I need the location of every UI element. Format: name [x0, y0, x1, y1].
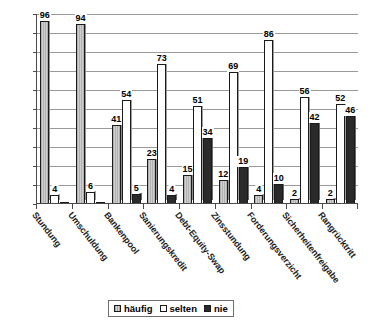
bar-group: 9460 [73, 14, 109, 203]
bar-value-label: 4 [51, 184, 58, 195]
bar-value-label: 54 [120, 89, 132, 100]
x-label-cell: Rangrücktritt [322, 206, 358, 290]
bar-haeufig[interactable]: 94 [76, 24, 85, 203]
legend-label: nie [214, 303, 228, 314]
bar-slot: 41 [112, 14, 121, 203]
legend-swatch-selten [160, 305, 167, 312]
plot-area: 100%90%80%70%60%50%40%30%20%10%0% 964094… [36, 14, 358, 204]
bar-selten[interactable]: 6 [86, 192, 95, 203]
bar-haeufig[interactable]: 12 [219, 180, 228, 203]
bar-value-label: 15 [182, 164, 194, 175]
bar-selten[interactable]: 54 [122, 100, 131, 203]
bar-nie[interactable]: 46 [346, 116, 355, 203]
bar-slot: 2 [326, 14, 335, 203]
bar-groups: 9640946041545237341551341269194861025642… [37, 14, 358, 203]
x-label-cell: Debt-Equity-Swap [179, 206, 215, 290]
bar-slot: 0 [96, 14, 105, 203]
bar-value-label: 12 [217, 169, 229, 180]
bar-nie[interactable]: 19 [239, 167, 248, 203]
bar-nie[interactable]: 10 [274, 184, 283, 203]
bar-slot: 54 [122, 14, 131, 203]
bar-nie[interactable]: 42 [310, 123, 319, 203]
bar-value-label: 23 [146, 148, 158, 159]
bar-haeufig[interactable]: 96 [40, 21, 49, 203]
bar-value-label: 46 [344, 105, 356, 116]
bar-chart: 100%90%80%70%60%50%40%30%20%10%0% 964094… [0, 0, 376, 332]
bar-value-label: 4 [255, 184, 262, 195]
legend-label: selten [170, 303, 197, 314]
bar-slot: 10 [274, 14, 283, 203]
bar-value-label: 96 [39, 10, 51, 21]
bar-value-label: 2 [327, 188, 334, 199]
bar-group: 48610 [251, 14, 287, 203]
bar-value-label: 5 [133, 183, 140, 194]
bar-value-label: 52 [334, 93, 346, 104]
bar-haeufig[interactable]: 41 [112, 125, 121, 203]
bar-slot: 23 [147, 14, 156, 203]
bar-haeufig[interactable]: 2 [326, 199, 335, 203]
bar-value-label: 6 [87, 181, 94, 192]
bar-group: 25246 [322, 14, 358, 203]
bar-value-label: 51 [192, 95, 204, 106]
x-axis-labels: StundungUmschuldungBankenpoolSanierungsk… [36, 206, 358, 290]
bar-haeufig[interactable]: 2 [290, 199, 299, 203]
bar-selten[interactable]: 73 [157, 64, 166, 203]
bar-group: 126919 [215, 14, 251, 203]
x-axis-category-label: Stundung [30, 210, 63, 249]
x-label-cell: Umschuldung [72, 206, 108, 290]
bar-nie[interactable]: 0 [60, 202, 69, 204]
bar-value-label: 69 [227, 61, 239, 72]
bar-value-label: 86 [263, 29, 275, 40]
bar-slot: 51 [193, 14, 202, 203]
bar-value-label: 94 [74, 13, 86, 24]
bar-value-label: 56 [299, 86, 311, 97]
bar-slot: 46 [346, 14, 355, 203]
x-label-cell: Sicherheitenfreigabe [286, 206, 322, 290]
bar-slot: 69 [229, 14, 238, 203]
bar-slot: 19 [239, 14, 248, 203]
legend-swatch-haeufig [114, 305, 121, 312]
bar-value-label: 73 [156, 53, 168, 64]
bar-slot: 0 [60, 14, 69, 203]
bar-value-label: 34 [202, 127, 214, 138]
bar-value-label: 2 [291, 188, 298, 199]
x-label-cell: Zinsstundung [215, 206, 251, 290]
bar-nie[interactable]: 0 [96, 202, 105, 204]
bar-value-label: 41 [110, 114, 122, 125]
legend-item-selten[interactable]: selten [160, 303, 197, 314]
bar-haeufig[interactable]: 23 [147, 159, 156, 203]
bar-slot: 94 [76, 14, 85, 203]
bar-slot: 15 [183, 14, 192, 203]
bar-nie[interactable]: 34 [203, 138, 212, 203]
legend-label: häufig [124, 303, 153, 314]
bar-slot: 42 [310, 14, 319, 203]
x-axis-category-label: Bankenpool [102, 210, 141, 256]
bar-nie[interactable]: 5 [132, 194, 141, 204]
bar-slot: 56 [300, 14, 309, 203]
bar-slot: 4 [254, 14, 263, 203]
x-axis-category-label: Rangrücktritt [316, 210, 358, 260]
legend-item-nie[interactable]: nie [204, 303, 228, 314]
x-label-cell: Stundung [36, 206, 72, 290]
bar-slot: 4 [167, 14, 176, 203]
bar-slot: 96 [40, 14, 49, 203]
bar-value-label: 42 [309, 112, 321, 123]
x-label-cell: Sanierungskredit [143, 206, 179, 290]
bar-selten[interactable]: 4 [50, 195, 59, 203]
bar-slot: 6 [86, 14, 95, 203]
bar-value-label: 10 [273, 173, 285, 184]
bar-selten[interactable]: 51 [193, 106, 202, 203]
bar-slot: 73 [157, 14, 166, 203]
bar-selten[interactable]: 69 [229, 72, 238, 203]
bar-nie[interactable]: 4 [167, 195, 176, 203]
legend-item-haeufig[interactable]: häufig [114, 303, 153, 314]
bar-selten[interactable]: 52 [336, 104, 345, 203]
bar-haeufig[interactable]: 4 [254, 195, 263, 203]
bar-slot: 4 [50, 14, 59, 203]
bar-group: 41545 [108, 14, 144, 203]
bar-slot: 34 [203, 14, 212, 203]
bar-group: 155134 [180, 14, 216, 203]
bar-group: 9640 [37, 14, 73, 203]
bar-haeufig[interactable]: 15 [183, 175, 192, 204]
bar-slot: 2 [290, 14, 299, 203]
